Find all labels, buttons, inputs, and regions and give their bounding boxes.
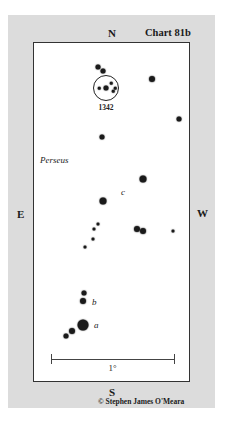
- star-marker: [69, 328, 75, 334]
- star-marker: [96, 65, 101, 70]
- star-marker: [101, 69, 106, 74]
- star-label: c: [121, 188, 125, 197]
- star-marker: [64, 334, 69, 339]
- star-label: a: [94, 321, 99, 330]
- star-marker: [172, 230, 175, 233]
- scale-label: 1°: [108, 364, 116, 373]
- star-marker: [149, 76, 155, 82]
- star-marker: [98, 87, 101, 90]
- east-label: E: [17, 209, 24, 220]
- scale-bar: [51, 359, 174, 360]
- star-marker: [100, 198, 107, 205]
- star-marker: [92, 238, 95, 241]
- chart-title: Chart 81b: [145, 28, 191, 39]
- star-marker: [104, 86, 109, 91]
- copyright-credit: © Stephen James O'Meara: [98, 398, 184, 406]
- cluster-label: 1342: [99, 104, 114, 112]
- star-marker: [112, 90, 115, 93]
- star-marker: [84, 246, 87, 249]
- west-label: W: [197, 208, 208, 219]
- star-marker: [114, 87, 117, 90]
- star-marker: [78, 320, 89, 331]
- star-marker: [100, 135, 105, 140]
- star-label: b: [92, 298, 97, 307]
- star-marker: [110, 82, 113, 85]
- scale-bar-left-tick: [51, 354, 52, 364]
- star-marker: [80, 298, 86, 304]
- star-marker: [93, 228, 96, 231]
- star-marker: [140, 228, 146, 234]
- star-marker: [97, 223, 100, 226]
- star-marker: [140, 176, 147, 183]
- star-marker: [82, 291, 87, 296]
- constellation-label: Perseus: [40, 156, 69, 165]
- star-marker: [177, 117, 182, 122]
- scale-bar-right-tick: [174, 354, 175, 364]
- north-label: N: [108, 28, 116, 39]
